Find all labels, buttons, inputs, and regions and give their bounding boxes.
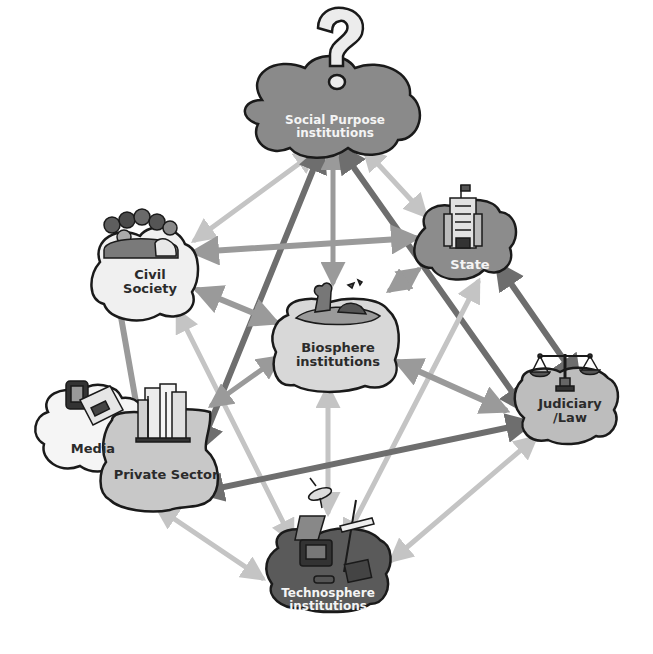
node-civil-society[interactable] — [91, 209, 198, 320]
label-state: State — [440, 258, 500, 272]
node-biosphere[interactable] — [272, 280, 398, 392]
label-biosphere: Biosphere institutions — [278, 341, 398, 368]
edge-social-civil — [195, 152, 315, 240]
label-technosphere-line1: Technosphere — [268, 587, 388, 600]
edge-biosphere-private — [212, 358, 278, 405]
label-judiciary-line2: /Law — [520, 411, 620, 425]
label-judiciary: Judiciary /Law — [520, 397, 620, 424]
label-private-sector: Private Sector — [106, 468, 226, 482]
label-civil-society-line2: Society — [100, 282, 200, 296]
office-buildings-icon — [136, 384, 190, 442]
label-biosphere-line1: Biosphere — [278, 341, 398, 355]
label-social-purpose-line1: Social Purpose — [260, 114, 410, 127]
edge-social-state — [365, 150, 425, 215]
edge-state-biosphere — [390, 270, 418, 290]
label-civil-society: Civil Society — [100, 268, 200, 295]
diagram-canvas — [0, 0, 653, 654]
label-civil-society-line1: Civil — [100, 268, 200, 282]
government-building-icon — [444, 185, 482, 248]
label-judiciary-line1: Judiciary — [520, 397, 620, 411]
label-biosphere-line2: institutions — [278, 355, 398, 369]
label-media: Media — [58, 442, 128, 456]
label-technosphere-line2: institutions — [268, 600, 388, 613]
label-private-sector-line1: Private Sector — [106, 468, 226, 482]
edge-private-techno — [158, 508, 262, 578]
label-technosphere: Technosphere institutions — [268, 587, 388, 612]
edge-techno-judiciary — [392, 438, 535, 560]
label-social-purpose-line2: institutions — [260, 127, 410, 140]
label-media-line1: Media — [58, 442, 128, 456]
label-state-line1: State — [440, 258, 500, 272]
label-social-purpose: Social Purpose institutions — [260, 114, 410, 139]
edge-state-civil — [195, 238, 415, 252]
